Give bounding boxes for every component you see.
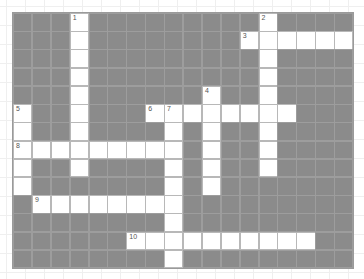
crossword-cell[interactable]: [164, 177, 183, 196]
block-cell: [221, 86, 240, 105]
crossword-cell[interactable]: [164, 213, 183, 232]
block-cell: [277, 177, 296, 196]
crossword-cell[interactable]: [221, 104, 240, 123]
crossword-cell[interactable]: [70, 31, 89, 50]
block-cell: [164, 86, 183, 105]
crossword-cell[interactable]: [70, 122, 89, 141]
block-cell: [145, 49, 164, 68]
crossword-cell[interactable]: [183, 232, 202, 251]
crossword-cell[interactable]: [334, 31, 353, 50]
crossword-cell[interactable]: [315, 31, 334, 50]
crossword-cell[interactable]: [202, 159, 221, 178]
block-cell: [277, 195, 296, 214]
clue-number: 5: [16, 105, 20, 113]
crossword-cell[interactable]: 8: [13, 141, 32, 160]
crossword-cell[interactable]: [259, 31, 278, 50]
block-cell: [296, 213, 315, 232]
crossword-cell[interactable]: [13, 177, 32, 196]
crossword-cell[interactable]: [277, 31, 296, 50]
block-cell: [164, 49, 183, 68]
block-cell: [145, 68, 164, 87]
crossword-cell[interactable]: [296, 31, 315, 50]
crossword-cell[interactable]: 1: [70, 13, 89, 32]
crossword-cell[interactable]: [126, 141, 145, 160]
block-cell: [296, 86, 315, 105]
crossword-cell[interactable]: [51, 141, 70, 160]
crossword-cell[interactable]: [202, 104, 221, 123]
clue-number: 9: [35, 196, 39, 204]
block-cell: [221, 49, 240, 68]
crossword-cell[interactable]: [259, 104, 278, 123]
crossword-cell[interactable]: 6: [145, 104, 164, 123]
crossword-cell[interactable]: [89, 195, 108, 214]
crossword-cell[interactable]: [259, 159, 278, 178]
crossword-cell[interactable]: [70, 68, 89, 87]
crossword-cell[interactable]: [259, 141, 278, 160]
block-cell: [164, 13, 183, 32]
crossword-cell[interactable]: [164, 141, 183, 160]
block-cell: [240, 86, 259, 105]
crossword-cell[interactable]: [259, 49, 278, 68]
crossword-cell[interactable]: [277, 104, 296, 123]
crossword-cell[interactable]: [70, 86, 89, 105]
block-cell: [107, 159, 126, 178]
clue-number: 7: [167, 105, 171, 113]
crossword-cell[interactable]: 9: [32, 195, 51, 214]
crossword-cell[interactable]: 7: [164, 104, 183, 123]
crossword-cell[interactable]: [145, 141, 164, 160]
crossword-cell[interactable]: [240, 232, 259, 251]
crossword-cell[interactable]: 3: [240, 31, 259, 50]
crossword-cell[interactable]: [277, 232, 296, 251]
crossword-cell[interactable]: [202, 232, 221, 251]
crossword-cell[interactable]: [51, 195, 70, 214]
crossword-cell[interactable]: [145, 195, 164, 214]
crossword-cell[interactable]: [89, 141, 108, 160]
block-cell: [334, 49, 353, 68]
crossword-cell[interactable]: 4: [202, 86, 221, 105]
block-cell: [89, 159, 108, 178]
crossword-cell[interactable]: [259, 232, 278, 251]
crossword-cell[interactable]: [107, 195, 126, 214]
crossword-cell[interactable]: 5: [13, 104, 32, 123]
crossword-cell[interactable]: [164, 232, 183, 251]
crossword-cell[interactable]: [164, 250, 183, 269]
block-cell: [334, 13, 353, 32]
crossword-cell[interactable]: [259, 68, 278, 87]
crossword-cell[interactable]: [126, 195, 145, 214]
block-cell: [334, 232, 353, 251]
crossword-cell[interactable]: [164, 122, 183, 141]
crossword-cell[interactable]: [70, 49, 89, 68]
crossword-cell[interactable]: [164, 195, 183, 214]
crossword-cell[interactable]: [107, 141, 126, 160]
crossword-cell[interactable]: [13, 122, 32, 141]
crossword-cell[interactable]: [259, 122, 278, 141]
crossword-cell[interactable]: [145, 232, 164, 251]
crossword-cell[interactable]: 2: [259, 13, 278, 32]
block-cell: [51, 68, 70, 87]
crossword-cell[interactable]: [13, 159, 32, 178]
block-cell: [107, 68, 126, 87]
block-cell: [107, 49, 126, 68]
crossword-cell[interactable]: [259, 86, 278, 105]
crossword-cell[interactable]: [70, 104, 89, 123]
crossword-cell[interactable]: [32, 141, 51, 160]
block-cell: [334, 250, 353, 269]
crossword-cell[interactable]: [296, 232, 315, 251]
crossword-cell[interactable]: [221, 232, 240, 251]
crossword-cell[interactable]: [202, 177, 221, 196]
crossword-cell[interactable]: [70, 195, 89, 214]
crossword-cell[interactable]: [70, 141, 89, 160]
block-cell: [89, 250, 108, 269]
crossword-cell[interactable]: [164, 159, 183, 178]
block-cell: [89, 232, 108, 251]
block-cell: [70, 232, 89, 251]
crossword-cell[interactable]: [183, 104, 202, 123]
crossword-cell[interactable]: [202, 141, 221, 160]
crossword-cell[interactable]: [202, 122, 221, 141]
crossword-cell[interactable]: [70, 159, 89, 178]
block-cell: [145, 213, 164, 232]
block-cell: [296, 68, 315, 87]
crossword-cell[interactable]: 10: [126, 232, 145, 251]
crossword-cell[interactable]: [240, 104, 259, 123]
block-cell: [240, 122, 259, 141]
